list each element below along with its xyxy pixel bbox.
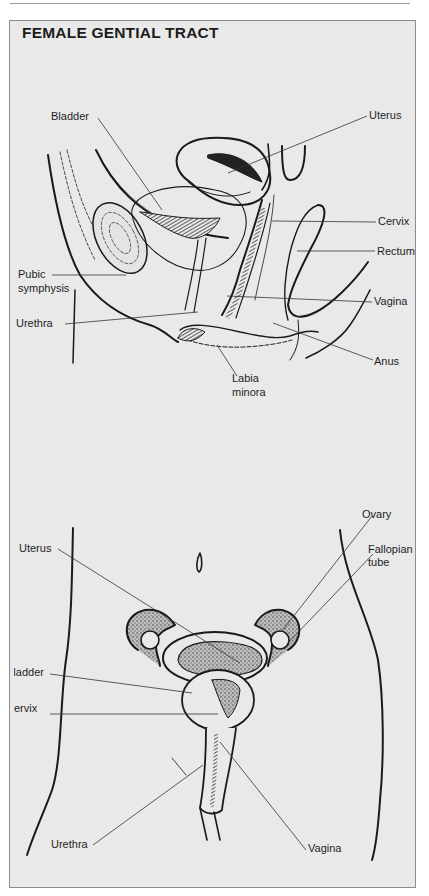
label-urethra: Urethra [16,317,53,330]
anatomy-illustration [0,0,429,896]
label-vagina-frontal: Vagina [308,842,341,855]
label-labia-minora-line2: minora [232,386,266,399]
label-vagina: Vagina [374,295,407,308]
label-fallopian-tube-line2: tube [368,556,389,569]
frontal-diagram [27,528,383,860]
label-uterus-frontal: Uterus [19,542,51,555]
label-fallopian-tube-line1: Fallopian [368,543,413,556]
label-anus: Anus [374,355,399,368]
label-ovary: Ovary [362,508,391,521]
label-uterus: Uterus [369,109,401,122]
sagittal-diagram [48,138,370,363]
label-bladder: Bladder [51,110,89,123]
label-rectum: Rectum [377,245,415,258]
label-pubic-symphysis-line1: Pubic [18,268,46,281]
label-pubic-symphysis-line2: symphysis [18,282,69,295]
label-urethra-frontal: Urethra [51,838,88,851]
label-labia-minora-line1: Labia [232,372,259,385]
label-cervix: Cervix [378,215,409,228]
